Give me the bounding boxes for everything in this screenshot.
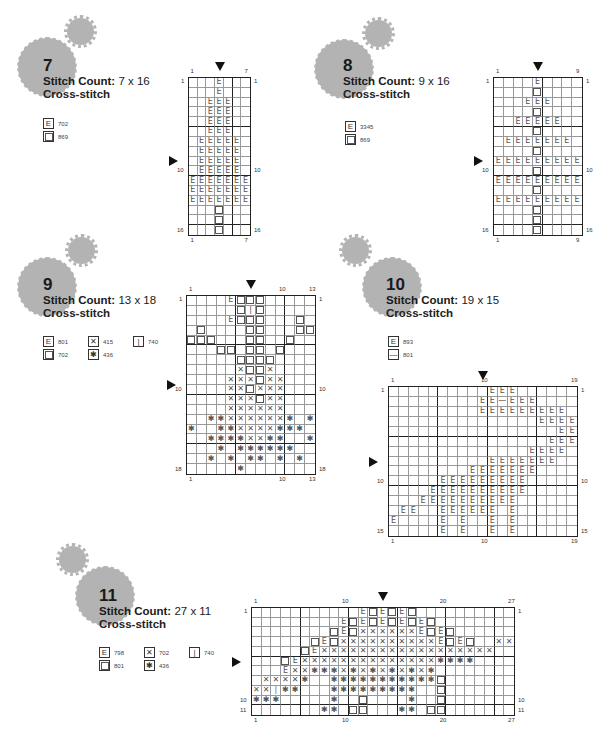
grid-cell: [446, 696, 456, 706]
left-axis-label: 10: [240, 697, 247, 703]
x-symbol-icon: ✕: [272, 676, 279, 684]
grid-cell: E: [508, 397, 518, 407]
grid-cell: ✕: [398, 627, 408, 637]
grid-cell: E: [533, 196, 543, 206]
E-symbol-icon: E: [529, 467, 534, 475]
x-symbol-icon: ✕: [257, 385, 264, 393]
grid-cell: [291, 637, 301, 647]
E-symbol-icon: E: [234, 147, 239, 155]
E-symbol-icon: E: [450, 477, 455, 485]
star-symbol-icon: ✱: [257, 455, 264, 463]
grid-cell: [187, 395, 197, 405]
E-symbol-icon: E: [399, 608, 404, 616]
x-symbol-icon: ✕: [360, 628, 367, 636]
grid-cell: [207, 316, 217, 326]
grid-cell: [187, 375, 197, 385]
top-axis-label: 7: [245, 68, 248, 74]
square-symbol-icon: [533, 88, 541, 96]
grid-cell: [465, 608, 475, 618]
x-symbol-icon: ✕: [379, 647, 386, 655]
grid-cell: [514, 78, 524, 88]
E-symbol-icon: E: [216, 108, 221, 116]
grid-cell: [475, 627, 485, 637]
grid-cell: [217, 395, 227, 405]
grid-cell: [429, 457, 439, 467]
grid-cell: [236, 316, 246, 326]
grid-cell: [295, 395, 305, 405]
grid-cell: [246, 345, 256, 355]
star-symbol-icon: ✱: [331, 667, 338, 675]
E-symbol-icon: E: [199, 137, 204, 145]
grid-cell: E: [206, 117, 215, 127]
square-symbol-icon: [45, 133, 53, 141]
grid-cell: [429, 387, 439, 397]
grid-cell: [438, 417, 448, 427]
x-symbol-icon: ✕: [408, 647, 415, 655]
grid-cell: [198, 78, 207, 88]
color-key-item: ✱436: [88, 349, 113, 360]
square-symbol-icon: [246, 366, 254, 374]
grid-cell: E: [498, 476, 508, 486]
grid-cell: [494, 88, 504, 98]
grid-cell: [285, 345, 295, 355]
grid-cell: [349, 618, 359, 628]
grid-cell: [417, 686, 427, 696]
grid-cell: [285, 434, 295, 444]
E-symbol-icon: E: [225, 177, 230, 185]
grid-cell: [419, 437, 429, 447]
x-symbol-icon: ✕: [389, 628, 396, 636]
grid-cell: E: [498, 496, 508, 506]
grid-cell: E: [478, 397, 488, 407]
grid-cell: [409, 437, 419, 447]
E-symbol-icon: E: [216, 186, 221, 194]
square-symbol-icon: [446, 628, 454, 636]
grid-cell: E: [206, 137, 215, 147]
grid-cell: E: [438, 526, 448, 536]
grid-cell: [233, 206, 242, 216]
E-symbol-icon: E: [243, 196, 248, 204]
grid-cell: ✕: [252, 686, 262, 696]
grid-cell: [233, 225, 242, 235]
decorative-circle-small-7: [67, 18, 94, 45]
star-symbol-icon: ✱: [307, 435, 314, 443]
grid-cell: [494, 147, 504, 157]
decorative-circle-small-11: [59, 546, 86, 573]
star-symbol-icon: ✱: [331, 676, 338, 684]
square-symbol-icon: [369, 608, 377, 616]
grid-cell: [419, 417, 429, 427]
stitch-grid: E|E✕✕✕✕✕✕✕✕✕✕✕✕✕✕✕✕✕✕✕✕✕✕✕✱✱✕✕✕✕✕✕✱✱✱✱✱✕…: [186, 295, 316, 475]
square-symbol-icon: [408, 618, 416, 626]
grid-cell: ✕: [236, 365, 246, 375]
grid-cell: ✱: [187, 425, 197, 435]
grid-cell: [285, 306, 295, 316]
grid-cell: [557, 496, 567, 506]
x-symbol-icon: ✕: [350, 638, 357, 646]
grid-cell: [523, 107, 533, 117]
grid-cell: E: [436, 627, 446, 637]
grid-cell: [518, 506, 528, 516]
key-symbol-box: ✕: [88, 336, 99, 347]
square-symbol-icon: [207, 336, 215, 344]
grid-cell: [567, 486, 577, 496]
grid-cell: [438, 466, 448, 476]
grid-cell: [518, 447, 528, 457]
grid-cell: E: [547, 417, 557, 427]
grid-cell: [429, 516, 439, 526]
grid-cell: [207, 326, 217, 336]
grid-cell: [233, 88, 242, 98]
thread-code: 893: [403, 339, 413, 345]
square-symbol-icon: [256, 366, 264, 374]
grid-cell: E: [547, 407, 557, 417]
grid-cell: [495, 647, 505, 657]
grid-cell: [246, 316, 256, 326]
x-symbol-icon: ✕: [227, 405, 234, 413]
grid-cell: [187, 316, 197, 326]
top-axis-label: 13: [309, 286, 316, 292]
E-symbol-icon: E: [490, 477, 495, 485]
color-key-item: E798: [99, 647, 124, 658]
grid-cell: E: [206, 186, 215, 196]
grid-cell: E: [215, 78, 224, 88]
grid-cell: ✕: [388, 627, 398, 637]
grid-cell: E: [224, 98, 233, 108]
grid-cell: [256, 306, 266, 316]
